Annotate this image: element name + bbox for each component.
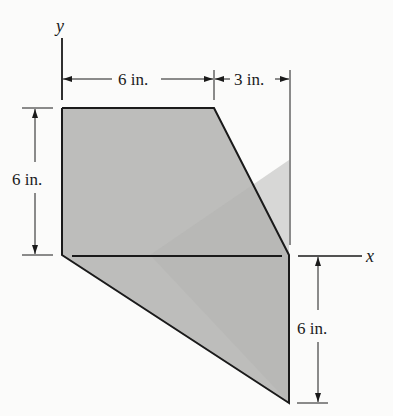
arrowhead: [32, 245, 38, 254]
dim-label-top-6in: 6 in.: [118, 70, 148, 89]
y-axis-label: y: [54, 16, 64, 36]
area-diagram: y x 6 in. 3 in. 6 in. 6 in.: [0, 0, 393, 416]
dim-label-left-6in: 6 in.: [12, 170, 42, 189]
arrowhead: [32, 109, 38, 118]
dim-label-right-6in: 6 in.: [297, 319, 327, 338]
arrowhead: [204, 76, 213, 82]
arrowhead: [63, 76, 72, 82]
arrowhead: [315, 393, 321, 402]
dim-label-top-3in: 3 in.: [234, 70, 264, 89]
arrowhead: [280, 76, 289, 82]
arrowhead: [315, 257, 321, 266]
x-axis-label: x: [365, 246, 374, 266]
